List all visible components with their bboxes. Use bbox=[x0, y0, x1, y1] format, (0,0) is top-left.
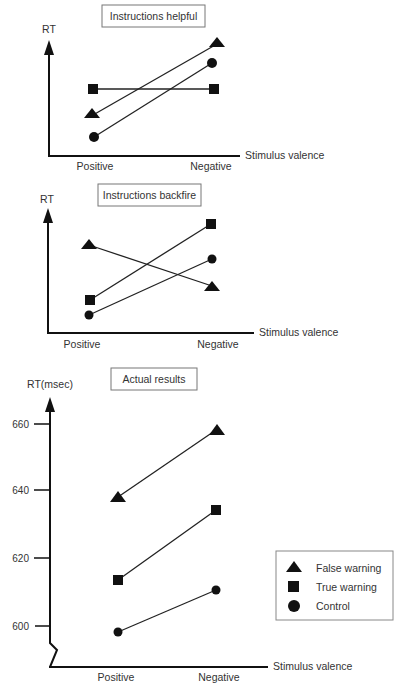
chart-title: Instructions helpful bbox=[110, 10, 198, 22]
series-line-true-warning bbox=[90, 224, 211, 300]
series-line-control bbox=[94, 63, 212, 137]
series-line-control bbox=[118, 590, 216, 632]
chart-instructions-backfire: Instructions backfire RT Stimulus valenc… bbox=[40, 184, 339, 350]
chart-instructions-helpful: Instructions helpful RT Stimulus valence… bbox=[42, 5, 325, 172]
y-axis-arrow-icon bbox=[43, 208, 53, 223]
square-legend-icon bbox=[288, 581, 299, 592]
square-marker-icon bbox=[211, 505, 221, 515]
triangle-marker-icon bbox=[209, 424, 225, 435]
legend-label-control: Control bbox=[316, 600, 350, 612]
legend-label-true-warning: True warning bbox=[316, 581, 377, 593]
x-tick-positive: Positive bbox=[77, 160, 114, 172]
circle-legend-icon bbox=[288, 600, 300, 612]
circle-marker-icon bbox=[208, 255, 217, 264]
circle-marker-icon bbox=[207, 58, 217, 68]
square-marker-icon bbox=[85, 295, 95, 305]
y-tick-label: 660 bbox=[12, 419, 29, 430]
circle-marker-icon bbox=[89, 132, 99, 142]
circle-marker-icon bbox=[212, 586, 221, 595]
square-marker-icon bbox=[88, 84, 98, 94]
triangle-marker-icon bbox=[81, 239, 97, 249]
y-tick-label: 620 bbox=[12, 553, 29, 564]
square-marker-icon bbox=[113, 575, 123, 585]
chart-actual-results: Actual results RT(msec) Stimulus valence… bbox=[12, 368, 393, 683]
circle-marker-icon bbox=[114, 628, 123, 637]
y-axis-label: RT bbox=[40, 193, 54, 205]
square-marker-icon bbox=[209, 84, 219, 94]
x-axis-label: Stimulus valence bbox=[273, 660, 353, 672]
x-tick-negative: Negative bbox=[198, 671, 240, 683]
square-marker-icon bbox=[206, 219, 216, 229]
chart-title: Instructions backfire bbox=[103, 189, 197, 201]
x-axis-label: Stimulus valence bbox=[259, 326, 339, 338]
x-tick-positive: Positive bbox=[64, 338, 101, 350]
circle-marker-icon bbox=[85, 311, 94, 320]
y-axis-label: RT bbox=[42, 23, 56, 35]
series-line-true-warning bbox=[118, 510, 216, 580]
figure: Instructions helpful RT Stimulus valence… bbox=[0, 0, 405, 693]
series-line-false-warning bbox=[93, 44, 217, 115]
y-tick-label: 640 bbox=[12, 485, 29, 496]
y-axis-arrow-icon bbox=[44, 40, 54, 55]
legend: False warning True warning Control bbox=[276, 551, 393, 620]
triangle-marker-icon bbox=[209, 37, 225, 47]
triangle-marker-icon bbox=[204, 281, 220, 291]
x-axis-label: Stimulus valence bbox=[245, 149, 325, 161]
legend-label-false-warning: False warning bbox=[316, 562, 382, 574]
series-line-false-warning bbox=[89, 245, 212, 286]
chart-title: Actual results bbox=[122, 373, 185, 385]
x-tick-positive: Positive bbox=[98, 671, 135, 683]
series-line-false-warning bbox=[118, 430, 216, 497]
series-line-control bbox=[89, 259, 212, 315]
x-tick-negative: Negative bbox=[197, 338, 239, 350]
y-tick-label: 600 bbox=[12, 621, 29, 632]
y-axis-arrow-icon bbox=[45, 397, 55, 412]
x-tick-negative: Negative bbox=[190, 160, 232, 172]
y-axis bbox=[50, 412, 57, 667]
y-axis-label: RT(msec) bbox=[27, 378, 73, 390]
